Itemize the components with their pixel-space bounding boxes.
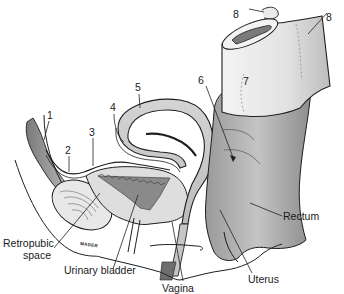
label-6: 6	[198, 74, 204, 86]
label-uterus: Uterus	[248, 273, 279, 285]
label-retropubic: Retropubic	[3, 237, 54, 249]
label-vagina: Vagina	[162, 282, 194, 294]
label-5: 5	[135, 81, 141, 93]
label-rectum: Rectum	[283, 210, 319, 222]
label-1: 1	[47, 109, 53, 121]
artist-signature: MADER	[80, 241, 99, 249]
label-8-upper: 8	[233, 8, 239, 20]
label-2: 2	[65, 144, 71, 156]
peritoneal-sleeve	[219, 7, 330, 116]
pelvis-diagram: 1 2 3 4 5 6 7 8 8 Retropubic space Urina…	[0, 0, 344, 294]
label-4: 4	[110, 101, 116, 113]
label-retropubic-space: space	[23, 249, 51, 261]
label-urinary-bladder: Urinary bladder	[64, 264, 136, 276]
label-7: 7	[243, 75, 249, 87]
label-8-right: 8	[326, 11, 332, 23]
label-3: 3	[89, 126, 95, 138]
